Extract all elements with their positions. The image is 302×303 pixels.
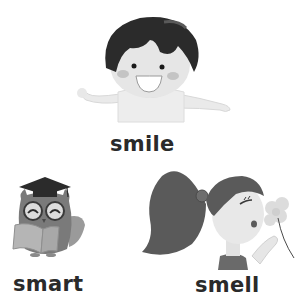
owl-left-eye xyxy=(24,202,42,220)
girl-hand xyxy=(252,236,278,264)
word-label-smart: smart xyxy=(13,274,83,295)
boy-right-arm xyxy=(178,94,230,112)
word-label-smell: smell xyxy=(195,275,260,296)
boy-left-arm xyxy=(82,91,123,103)
smiling-boy-illustration xyxy=(60,10,240,125)
boy-left-eye xyxy=(132,64,137,69)
card-smile: smile xyxy=(0,0,302,160)
owl-graduate-illustration xyxy=(5,175,95,265)
flower-icon xyxy=(264,197,289,226)
word-label-smile: smile xyxy=(110,134,175,155)
owl-right-eye xyxy=(46,202,64,220)
girl-ponytail xyxy=(142,171,206,254)
girl-smelling-flower-illustration xyxy=(140,160,302,270)
boy-right-eye xyxy=(160,65,165,70)
card-smell: smell xyxy=(140,160,302,303)
card-smart: smart xyxy=(0,170,120,303)
owl-book xyxy=(13,224,43,253)
flower-stem xyxy=(278,218,294,258)
